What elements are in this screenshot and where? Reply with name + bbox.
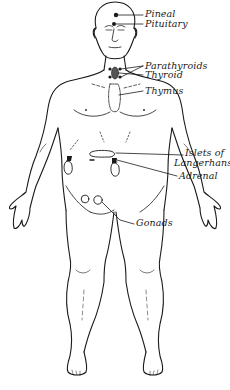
kidney [64,161,72,174]
glands [64,13,122,204]
parathyroid-gland [108,75,111,78]
thymus-gland [109,84,121,112]
parathyroid-gland [108,67,111,70]
leader-lines [102,15,183,224]
label-thymus: Thymus [145,86,183,96]
pineal-gland [114,13,118,17]
legs [66,210,164,375]
gonad [94,196,102,204]
pituitary-gland [112,22,116,26]
label-thyroid: Thyroid [145,70,183,80]
label-gonads: Gonads [136,218,173,228]
kidney [111,163,119,176]
leader-islets [116,153,183,155]
head [93,2,137,59]
leader-thymus [119,91,143,95]
label-pituitary: Pituitary [145,19,188,29]
label-adrenal: Adrenal [179,171,218,181]
gonad [81,195,89,203]
endocrine-diagram: Pineal Pituitary Parathyroids Thyroid Th… [0,0,230,390]
label-islets-line2: Langerhans [174,158,230,168]
adrenal-gland [67,156,72,161]
pancreas [90,150,115,157]
thyroid-gland [112,67,119,79]
body-figure [0,0,230,390]
